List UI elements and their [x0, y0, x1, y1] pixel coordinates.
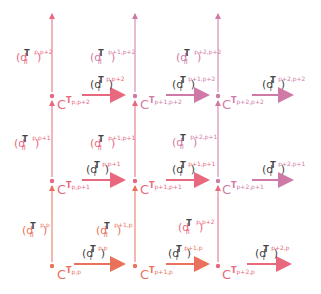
vertical-map-label: (dTII)p+2,p+2	[176, 52, 228, 63]
horizontal-map-label: (dTI)p+1,p+1	[172, 164, 222, 175]
node-dot	[50, 179, 54, 183]
node-label: CTp,p	[57, 268, 81, 281]
node-label: CTp+1,p	[140, 268, 173, 281]
node-label: CTp,p+2	[57, 98, 90, 111]
node-dot	[216, 264, 220, 268]
horizontal-map-label: (dTI)p+2,p+1	[262, 164, 312, 175]
node-label: CTp+2,p	[222, 268, 255, 281]
vertical-map-label: (dTII)p,p+2	[16, 52, 60, 63]
node-dot	[133, 264, 137, 268]
vertical-map-label: (dTII)p+2,p+1	[172, 137, 224, 148]
vertical-map-label: (dTII)p+1,p	[96, 225, 140, 236]
horizontal-map-label: (dTI)p+1,p	[168, 248, 210, 259]
node-dot	[216, 179, 220, 183]
horizontal-map-label: (dTI)p+2,p	[255, 248, 297, 259]
horizontal-map-label: (dTI)p,p+1	[86, 164, 128, 175]
vertical-map-label: (dTII)p+1,p+2	[90, 52, 142, 63]
node-label: CTp,p+1	[57, 183, 90, 196]
node-label: CTp+1,p+2	[140, 98, 182, 111]
vertical-map-label: (dTII)p,p+1	[14, 138, 58, 149]
vertical-map-label: (dTII)p+1,p+1	[90, 138, 142, 149]
node-label: CTp+2,p+2	[222, 98, 264, 111]
horizontal-map-label: (dTI)p,p+2	[90, 79, 132, 90]
node-label: CTp+2,p+1	[222, 183, 264, 196]
node-dot	[133, 94, 137, 98]
node-label: CTp+1,p+1	[140, 183, 182, 196]
node-dot	[50, 94, 54, 98]
horizontal-map-label: (dTI)p+2,p+2	[262, 79, 312, 90]
node-dot	[50, 264, 54, 268]
vertical-map-label: (dTII)p,p+2	[178, 222, 222, 233]
horizontal-map-label: (dTI)p,p	[82, 248, 115, 259]
vertical-map-label: (dTII)p,p	[22, 225, 57, 236]
horizontal-map-label: (dTI)p+1,p+2	[172, 79, 222, 90]
node-dot	[216, 94, 220, 98]
node-dot	[133, 179, 137, 183]
